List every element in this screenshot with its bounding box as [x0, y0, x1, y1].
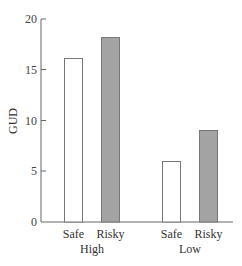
bar-chart: 20 15 10 5 0 GUD Safe Risky Safe Risky H… [0, 0, 242, 266]
ytick-label-0: 0 [31, 215, 37, 229]
bar-low-safe [163, 162, 181, 223]
ytick-label-20: 20 [25, 12, 37, 26]
ytick-label-15: 15 [25, 63, 37, 77]
y-ticks [41, 19, 46, 171]
ytick-label-10: 10 [25, 114, 37, 128]
ytick-label-5: 5 [31, 164, 37, 178]
bar-high-safe [65, 59, 83, 223]
bar-label-low-risky: Risky [194, 227, 222, 241]
bar-label-low-safe: Safe [161, 227, 182, 241]
bar-label-high-risky: Risky [96, 227, 124, 241]
group-label-low: Low [179, 242, 201, 256]
bar-label-high-safe: Safe [63, 227, 84, 241]
y-axis-title: GUD [6, 108, 20, 134]
group-label-high: High [80, 242, 104, 256]
bar-high-risky [102, 38, 120, 223]
bar-low-risky [200, 131, 218, 223]
